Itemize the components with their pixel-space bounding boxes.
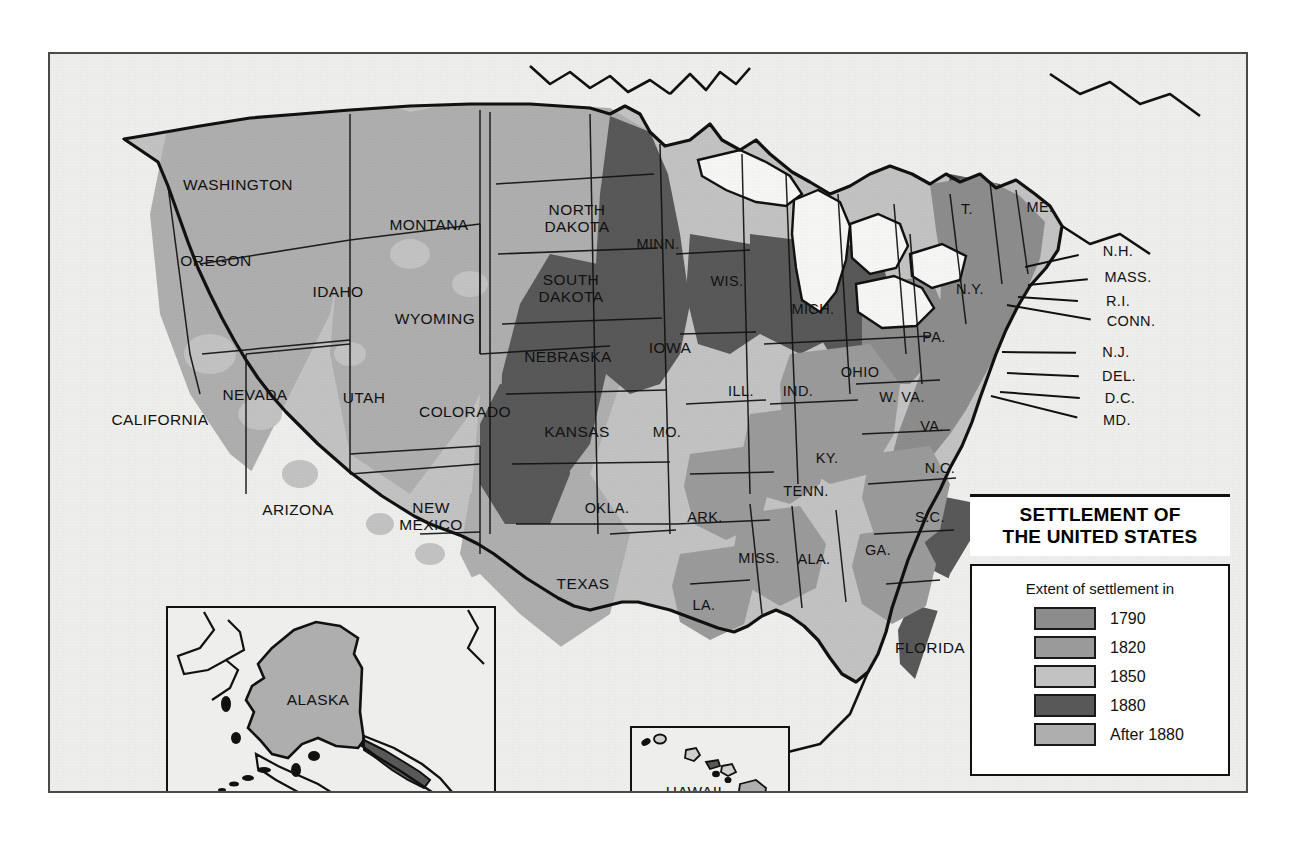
legend-swatch-1790 [1034, 607, 1096, 630]
legend-row-after-1880: After 1880 [972, 723, 1228, 746]
hawaii-inset: HAWAII [630, 726, 790, 793]
legend-row-1820: 1820 [972, 636, 1228, 659]
legend-label-after-1880: After 1880 [1110, 726, 1184, 744]
legend-row-1880: 1880 [972, 694, 1228, 717]
legend-title-line2: THE UNITED STATES [974, 526, 1226, 548]
legend-rows: 1790182018501880After 1880 [972, 607, 1228, 746]
legend-label-1880: 1880 [1110, 697, 1146, 715]
legend-label-1850: 1850 [1110, 668, 1146, 686]
map-legend: SETTLEMENT OF THE UNITED STATES Extent o… [970, 494, 1230, 776]
legend-swatch-1850 [1034, 665, 1096, 688]
hawaii-inset-map [632, 728, 788, 793]
alaska-inset: ALASKA [166, 606, 496, 793]
map-page: WASHINGTONOREGONCALIFORNIAIDAHONEVADAUTA… [0, 0, 1302, 841]
legend-swatch-1820 [1034, 636, 1096, 659]
legend-label-1820: 1820 [1110, 639, 1146, 657]
legend-body: Extent of settlement in 1790182018501880… [970, 564, 1230, 776]
legend-title: SETTLEMENT OF THE UNITED STATES [970, 494, 1230, 556]
alaska-inset-map [168, 608, 494, 793]
legend-swatch-after-1880 [1034, 723, 1096, 746]
legend-title-line1: SETTLEMENT OF [974, 504, 1226, 526]
legend-label-1790: 1790 [1110, 610, 1146, 628]
legend-row-1850: 1850 [972, 665, 1228, 688]
legend-swatch-1880 [1034, 694, 1096, 717]
legend-row-1790: 1790 [972, 607, 1228, 630]
legend-subtitle: Extent of settlement in [972, 580, 1228, 597]
map-frame: WASHINGTONOREGONCALIFORNIAIDAHONEVADAUTA… [48, 52, 1248, 793]
